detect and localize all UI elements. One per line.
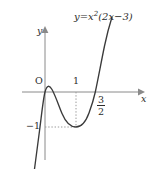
x-tick-label-three-halves: 3 2: [97, 95, 105, 117]
equation-label: y=x2(2x−3): [74, 11, 133, 22]
fraction-denominator: 2: [97, 107, 105, 117]
y-tick-label-neg-1: −1: [26, 121, 40, 131]
y-axis-label: y: [37, 26, 42, 36]
origin-label: O: [35, 76, 43, 86]
equation-rest: (2x−3): [98, 11, 133, 22]
x-axis-label: x: [141, 94, 146, 104]
equation-equals: =: [80, 11, 88, 22]
fraction-numerator: 3: [97, 95, 105, 105]
x-axis: [22, 89, 145, 96]
cubic-curve: [35, 17, 113, 169]
x-tick-label-1: 1: [73, 76, 79, 86]
function-graph-figure: y=x2(2x−3) y x O 1 −1 3 2: [0, 0, 152, 169]
